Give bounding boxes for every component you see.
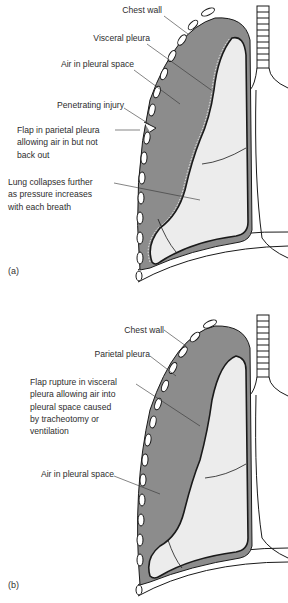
label-air-pleural-space-a: Air in pleural space: [40, 58, 134, 70]
label-penetrating-injury: Penetrating injury: [30, 99, 124, 111]
label-lung-collapses: Lung collapses further as pressure incre…: [8, 176, 118, 213]
trachea-icon: [250, 315, 288, 396]
trachea-icon: [250, 6, 288, 90]
lung-diagram-b: [0, 300, 288, 603]
panel-b-tension-pneumothorax: Chest wall Parietal pleura Flap rupture …: [0, 300, 288, 603]
label-flap-visceral-pleura: Flap rupture in visceral pleura allowing…: [30, 376, 140, 437]
label-parietal-pleura-b: Parietal pleura: [66, 348, 150, 360]
panel-a-open-pneumothorax: Chest wall Visceral pleura Air in pleura…: [0, 0, 288, 300]
label-air-pleural-space-b: Air in pleural space: [18, 468, 114, 480]
label-chest-wall-a: Chest wall: [96, 4, 162, 16]
panel-tag-b: (b): [8, 580, 19, 590]
label-chest-wall-b: Chest wall: [96, 324, 164, 336]
panel-tag-a: (a): [8, 266, 19, 276]
label-visceral-pleura-a: Visceral pleura: [66, 32, 150, 44]
label-flap-parietal-pleura: Flap in parietal pleura allowing air in …: [17, 124, 127, 161]
